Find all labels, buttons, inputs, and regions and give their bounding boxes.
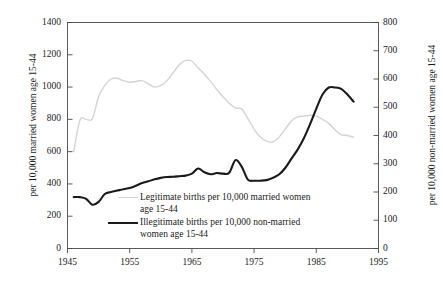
x-axis-tick-1955: 1955 <box>113 257 147 267</box>
left-axis-tick-200: 200 <box>27 210 61 220</box>
right-axis-tick-500: 500 <box>383 101 417 111</box>
right-axis-tick-100: 100 <box>383 214 417 224</box>
legend-label-illegitimate-line2: women age 15-44 <box>140 229 208 241</box>
x-axis-tick-1995: 1995 <box>362 257 396 267</box>
series-line-illegitimate <box>74 87 354 205</box>
right-axis-tick-200: 200 <box>383 186 417 196</box>
x-axis-tick-1975: 1975 <box>237 257 271 267</box>
legend-label-legitimate-line1: Legitimate births per 10,000 married wom… <box>140 192 310 204</box>
left-axis-tick-400: 400 <box>27 178 61 188</box>
left-axis-tick-0: 0 <box>27 243 61 253</box>
series-line-legitimate <box>74 60 354 152</box>
left-axis-tick-1200: 1200 <box>27 49 61 59</box>
right-axis-tick-400: 400 <box>383 130 417 140</box>
left-axis-tick-800: 800 <box>27 113 61 123</box>
legend-label-legitimate-line2: age 15-44 <box>140 204 178 216</box>
right-axis-tick-600: 600 <box>383 73 417 83</box>
plot-area <box>0 0 443 285</box>
x-axis-tick-1965: 1965 <box>175 257 209 267</box>
x-axis-tick-1985: 1985 <box>299 257 333 267</box>
legend-label-illegitimate-line1: Illegitimate births per 10,000 non-marri… <box>140 217 300 229</box>
chart-figure: per 10,000 married women age 15-44 per 1… <box>0 0 443 285</box>
x-axis-tick-1945: 1945 <box>51 257 85 267</box>
right-axis-tick-800: 800 <box>383 17 417 27</box>
left-axis-tick-1400: 1400 <box>27 17 61 27</box>
right-axis-tick-700: 700 <box>383 45 417 55</box>
legend-swatch-illegitimate <box>108 222 138 224</box>
right-axis-tick-300: 300 <box>383 158 417 168</box>
left-axis-tick-600: 600 <box>27 146 61 156</box>
right-axis-tick-0: 0 <box>383 243 417 253</box>
legend-swatch-legitimate <box>118 197 138 198</box>
left-axis-tick-1000: 1000 <box>27 81 61 91</box>
